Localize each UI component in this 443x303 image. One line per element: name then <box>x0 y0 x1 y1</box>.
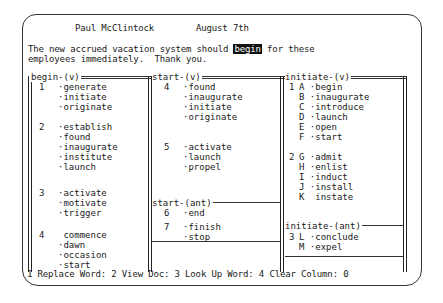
right-antonym-title: initiate-(ant) <box>285 221 362 231</box>
sense-number: 3 <box>39 188 44 198</box>
sense-number: 3 <box>289 232 294 242</box>
synonym-item[interactable]: ·initiate <box>183 102 232 112</box>
left-pane-border <box>28 76 32 272</box>
synonym-item[interactable]: F ·start <box>299 132 342 142</box>
document-line-2: employees immediately. Thank you. <box>28 54 207 64</box>
synonym-item[interactable]: D ·launch <box>299 112 348 122</box>
synonym-item[interactable]: ·originate <box>183 112 237 122</box>
synonym-item[interactable]: C ·introduce <box>299 102 364 112</box>
synonym-item[interactable]: ·originate <box>58 102 112 112</box>
synonym-item[interactable]: ·initiate <box>58 92 107 102</box>
synonym-item[interactable]: ·launch <box>58 162 96 172</box>
synonym-item[interactable]: ·propel <box>183 162 221 172</box>
middle-right-divider <box>280 76 284 272</box>
left-pane-title: begin-(v) <box>31 72 81 82</box>
middle-pane-title: start-(v) <box>152 72 202 82</box>
view-doc-key[interactable]: 2 View Doc <box>111 269 164 279</box>
sense-number: 4 <box>164 82 169 92</box>
synonym-item[interactable]: ·activate <box>183 142 232 152</box>
synonym-item[interactable]: A ·begin <box>299 82 342 92</box>
synonym-item[interactable]: ·inaugurate <box>58 142 118 152</box>
synonym-item[interactable]: E ·open <box>299 122 337 132</box>
antonym-item[interactable]: L ·conclude <box>299 232 359 242</box>
document-line-1: The new accrued vacation system should b… <box>28 44 315 54</box>
sense-number: 4 <box>39 230 44 240</box>
synonym-item[interactable]: J ·install <box>299 182 353 192</box>
synonym-item[interactable]: ·activate <box>58 188 107 198</box>
synonym-item[interactable]: ·inaugurate <box>183 92 243 102</box>
synonym-item[interactable]: H ·enlist <box>299 162 348 172</box>
right-bottom-separator <box>285 256 403 257</box>
synonym-item[interactable]: ·dawn <box>58 240 85 250</box>
synonym-item[interactable]: ·found <box>58 132 91 142</box>
sense-number: 7 <box>164 222 169 232</box>
sense-number: 6 <box>164 208 169 218</box>
synonym-item[interactable]: I ·induct <box>299 172 348 182</box>
synonym-item[interactable]: ·found <box>183 82 216 92</box>
sense-number: 5 <box>164 142 169 152</box>
synonym-item[interactable]: ·motivate <box>58 198 107 208</box>
function-key-bar: 1 Replace Word: 2 View Doc: 3 Look Up Wo… <box>27 269 348 279</box>
synonym-item[interactable]: commence <box>58 230 107 240</box>
sense-number: 2 <box>39 122 44 132</box>
column-value: 0 <box>343 269 348 279</box>
memo-author: Paul McClintock <box>75 23 154 33</box>
synonym-item[interactable]: ·trigger <box>58 208 101 218</box>
sense-number: 1 <box>289 82 294 92</box>
memo-date: August 7th <box>196 23 249 33</box>
middle-bottom-separator <box>152 241 280 242</box>
right-pane-title: initiate-(v) <box>285 72 351 82</box>
clear-column-key[interactable]: 4 Clear Column <box>259 269 333 279</box>
document-text: for these <box>262 44 315 54</box>
replace-word-key[interactable]: 1 Replace Word <box>27 269 101 279</box>
left-middle-divider <box>148 76 152 272</box>
right-pane-border <box>403 76 407 272</box>
document-text: The new accrued vacation system should <box>28 44 233 54</box>
synonym-item[interactable]: ·generate <box>58 82 107 92</box>
antonym-item[interactable]: ·finish <box>183 222 221 232</box>
look-up-word-key[interactable]: 3 Look Up Word <box>175 269 249 279</box>
synonym-item[interactable]: ·launch <box>183 152 221 162</box>
highlighted-word[interactable]: begin <box>233 44 261 54</box>
sense-number: 2 <box>289 152 294 162</box>
synonym-item[interactable]: K instate <box>299 192 353 202</box>
antonym-item[interactable]: M ·expel <box>299 242 342 252</box>
synonym-item[interactable]: ·establish <box>58 122 112 132</box>
synonym-item[interactable]: ·institute <box>58 152 112 162</box>
antonym-item[interactable]: ·end <box>183 208 205 218</box>
synonym-item[interactable]: G ·admit <box>299 152 342 162</box>
synonym-item[interactable]: B ·inaugurate <box>299 92 369 102</box>
middle-antonym-title: start-(ant) <box>152 198 213 208</box>
sense-number: 1 <box>39 82 44 92</box>
antonym-item[interactable]: ·stop <box>183 232 210 242</box>
synonym-item[interactable]: ·occasion <box>58 250 107 260</box>
